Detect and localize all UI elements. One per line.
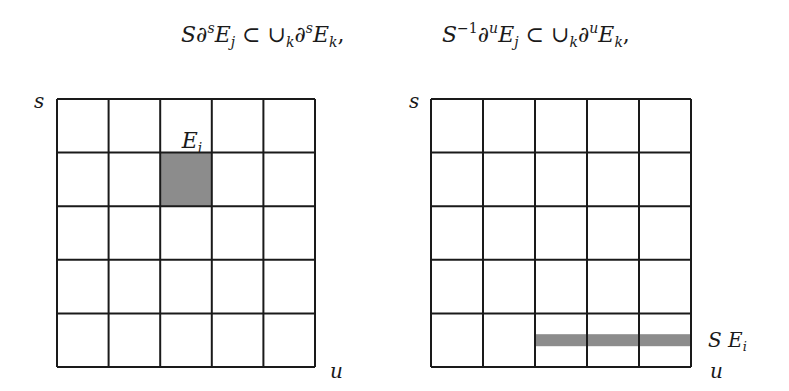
axis-label-u: u — [710, 359, 723, 383]
axis-label-s: s — [409, 89, 419, 113]
highlighted-strip — [535, 334, 691, 346]
axis-label-u: u — [330, 359, 343, 383]
highlighted-cell — [160, 153, 212, 207]
right-grid: S Eisu — [409, 89, 747, 383]
grid-diagram: EisuS Eisu — [0, 0, 789, 391]
strip-label: S Ei — [708, 328, 747, 354]
cell-label: Ei — [181, 128, 203, 156]
strip-label-subscript: i — [743, 339, 747, 354]
axis-label-s: s — [34, 89, 44, 113]
left-grid: Eisu — [34, 89, 343, 383]
